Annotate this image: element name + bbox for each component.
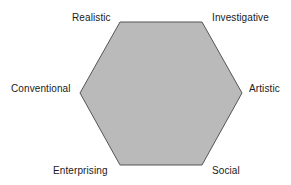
hexagon-diagram: Realistic Investigative Conventional Art… [0, 0, 291, 185]
hexagon [80, 22, 242, 165]
label-realistic: Realistic [72, 12, 111, 24]
label-investigative: Investigative [212, 12, 269, 24]
label-social: Social [212, 165, 240, 177]
label-enterprising: Enterprising [53, 165, 108, 177]
label-artistic: Artistic [249, 83, 280, 95]
label-conventional: Conventional [11, 83, 71, 95]
